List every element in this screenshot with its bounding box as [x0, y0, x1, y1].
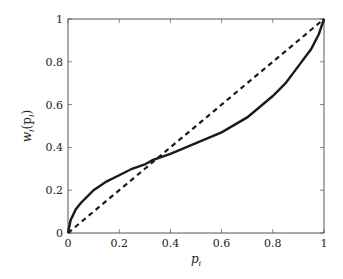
- identity-dashed-line: [68, 19, 324, 233]
- y-tick-label: 0.8: [46, 56, 64, 69]
- x-tick-label: 0.8: [264, 237, 282, 250]
- y-tick-label: 1: [56, 13, 63, 26]
- y-tick-label: 0.6: [46, 99, 64, 112]
- y-axis-label: wi(pi): [20, 110, 36, 142]
- y-tick-label: 0: [56, 227, 63, 240]
- x-tick-label: 1: [321, 237, 328, 250]
- x-tick-label: 0.6: [213, 237, 231, 250]
- x-tick-label: 0: [65, 237, 72, 250]
- y-axis-ticks: 00.20.40.60.81: [46, 13, 325, 240]
- chart: 00.20.40.60.81 00.20.40.60.81 pi wi(pi): [0, 0, 343, 279]
- x-tick-label: 0.2: [110, 237, 128, 250]
- y-tick-label: 0.4: [46, 141, 64, 154]
- y-tick-label: 0.2: [46, 184, 64, 197]
- x-axis-ticks: 00.20.40.60.81: [65, 19, 328, 250]
- x-axis-label: pi: [191, 252, 202, 268]
- x-tick-label: 0.4: [162, 237, 180, 250]
